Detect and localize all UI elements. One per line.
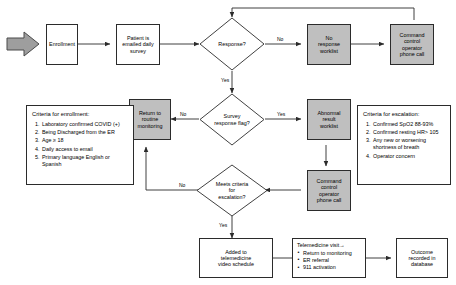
node-command-control-mid-label: Command control operator phone call <box>315 178 344 202</box>
edge-label-response-no: No <box>277 36 283 42</box>
start-arrow-icon <box>6 30 40 58</box>
panel-enrollment-criteria-title: Criteria for enrollment: <box>32 111 128 117</box>
node-command-control-top-label: Command control operator phone call <box>398 32 427 56</box>
enrollment-criteria-list: Laboratory confirmed COVID (+) Being Dis… <box>32 121 128 168</box>
node-no-response-worklist-label: No response worklist <box>316 35 342 53</box>
decision-escalation-label: Meets criteria for escalation? <box>196 164 268 217</box>
edge-label-escalation-yes: Yes <box>219 222 227 228</box>
node-emailed-survey[interactable]: Patient is emailed daily survey <box>116 24 160 65</box>
node-telemedicine-schedule-label: Added to telemedicine video schedule <box>216 249 256 267</box>
panel-escalation-criteria-title: Criteria for escalation: <box>363 111 445 117</box>
decision-response-label: Response? <box>199 17 265 71</box>
list-item: ER referral <box>297 257 362 264</box>
node-telemedicine-schedule[interactable]: Added to telemedicine video schedule <box>199 238 273 278</box>
edge-label-response-yes: Yes <box>221 77 229 83</box>
escalation-criteria-list: Confirmed SpO2 88-93% Confirmed resting … <box>363 121 445 160</box>
list-item: Daily access to email <box>41 146 128 153</box>
list-item: Return to monitoring <box>297 250 362 257</box>
node-no-response-worklist[interactable]: No response worklist <box>307 24 351 65</box>
list-item: Confirmed resting HR> 105 <box>372 129 445 136</box>
decision-response[interactable]: Response? <box>199 17 265 71</box>
list-item: Laboratory confirmed COVID (+) <box>41 121 128 128</box>
decision-survey-flag-label: Survey response flag? <box>199 93 265 146</box>
node-telemedicine-visit[interactable]: Telemedicine visit→ Return to monitoring… <box>292 238 366 278</box>
node-abnormal-result-worklist-label: Abnormal result worklist <box>315 110 342 128</box>
node-return-routine-monitoring[interactable]: Return to routine monitoring <box>129 99 171 140</box>
node-enrollment-label: Enrollment <box>47 41 77 47</box>
list-item: Primary language English or Spanish <box>41 154 128 168</box>
edge-label-flag-yes: Yes <box>277 111 285 117</box>
list-item: 911 activation <box>297 264 362 271</box>
node-abnormal-result-worklist[interactable]: Abnormal result worklist <box>307 99 351 140</box>
decision-survey-flag[interactable]: Survey response flag? <box>199 93 265 146</box>
edge-label-escalation-no: No <box>179 182 185 188</box>
list-item: Being Discharged from the ER <box>41 129 128 136</box>
node-command-control-top[interactable]: Command control operator phone call <box>390 24 434 65</box>
list-item: Confirmed SpO2 88-93% <box>372 121 445 128</box>
node-outcome-recorded[interactable]: Outcome recorded in database <box>396 238 448 278</box>
list-item: Operator concern <box>372 153 445 160</box>
flowchart-canvas: Enrollment Patient is emailed daily surv… <box>0 0 456 285</box>
panel-escalation-criteria: Criteria for escalation: Confirmed SpO2 … <box>357 105 451 185</box>
edge-label-flag-no: No <box>180 111 186 117</box>
node-return-routine-monitoring-label: Return to routine monitoring <box>135 110 164 128</box>
node-emailed-survey-label: Patient is emailed daily survey <box>120 35 155 53</box>
telemedicine-visit-title: Telemedicine visit→ <box>297 242 362 248</box>
node-command-control-mid[interactable]: Command control operator phone call <box>307 170 351 211</box>
node-enrollment[interactable]: Enrollment <box>46 24 78 65</box>
decision-escalation[interactable]: Meets criteria for escalation? <box>196 164 268 217</box>
panel-enrollment-criteria: Criteria for enrollment: Laboratory conf… <box>26 105 134 185</box>
telemedicine-visit-list: Return to monitoring ER referral 911 act… <box>297 250 362 271</box>
list-item: Any new or worsening shortness of breath <box>372 137 445 151</box>
list-item: Age ≥ 18 <box>41 137 128 144</box>
node-outcome-recorded-label: Outcome recorded in database <box>407 249 438 267</box>
